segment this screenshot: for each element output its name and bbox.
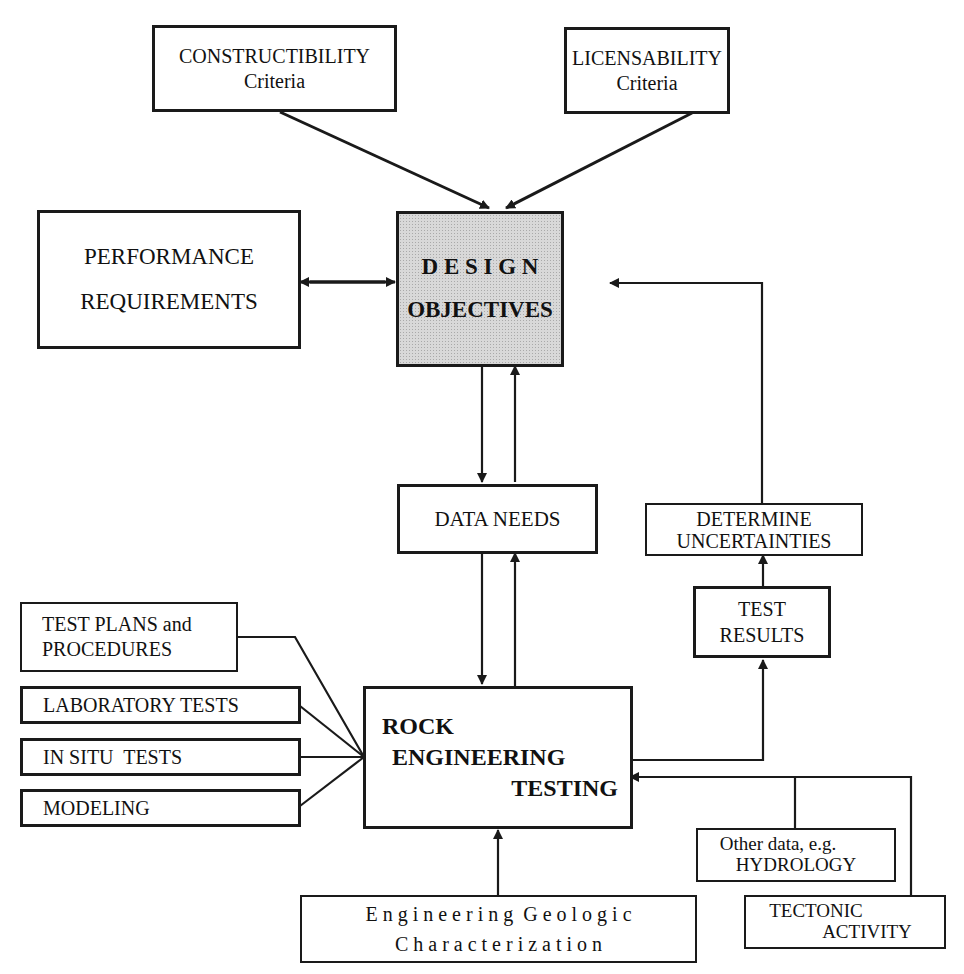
box-subtitle: HYDROLOGY bbox=[736, 855, 856, 876]
determine-uncertainties-box: DETERMINE UNCERTAINTIES bbox=[645, 503, 863, 556]
box-subtitle: OBJECTIVES bbox=[407, 296, 553, 325]
constructibility-criteria-box: CONSTRUCTIBILITY Criteria bbox=[152, 25, 397, 112]
test-results-box: TEST RESULTS bbox=[693, 586, 831, 658]
box-subtitle: UNCERTAINTIES bbox=[677, 530, 832, 552]
box-title: TEST bbox=[738, 596, 786, 622]
box-title: DETERMINE bbox=[696, 508, 812, 530]
box-subtitle: RESULTS bbox=[720, 622, 805, 648]
other-data-hydrology-box: Other data, e.g. HYDROLOGY bbox=[696, 828, 896, 882]
box-title: CONSTRUCTIBILITY bbox=[179, 44, 370, 69]
box-subtitle: Criteria bbox=[244, 69, 305, 94]
box-title: D E S I G N bbox=[422, 253, 539, 282]
box-subtitle: C h a r a c t e r i z a t i o n bbox=[395, 929, 602, 959]
box-subtitle: PROCEDURES bbox=[42, 637, 172, 662]
rock-engineering-testing-box: ROCK ENGINEERING TESTING bbox=[363, 686, 633, 829]
in-situ-tests-box: IN SITU TESTS bbox=[20, 738, 301, 776]
modeling-box: MODELING bbox=[20, 789, 301, 827]
box-title: TEST PLANS and bbox=[42, 612, 192, 637]
data-needs-box: DATA NEEDS bbox=[397, 484, 598, 554]
test-plans-box: TEST PLANS and PROCEDURES bbox=[20, 602, 238, 672]
laboratory-tests-box: LABORATORY TESTS bbox=[20, 686, 301, 724]
box-title: PERFORMANCE bbox=[84, 243, 254, 272]
box-title: DATA NEEDS bbox=[434, 506, 560, 532]
box-title: LABORATORY TESTS bbox=[43, 693, 239, 718]
licensability-criteria-box: LICENSABILITY Criteria bbox=[564, 27, 730, 114]
box-title: Other data, e.g. bbox=[720, 834, 873, 855]
box-subtitle: Criteria bbox=[616, 71, 677, 96]
box-title: MODELING bbox=[43, 796, 150, 821]
design-objectives-box: D E S I G N OBJECTIVES bbox=[396, 211, 564, 367]
box-title: IN SITU TESTS bbox=[43, 745, 182, 770]
box-subtitle: ENGINEERING bbox=[366, 742, 630, 773]
performance-requirements-box: PERFORMANCE REQUIREMENTS bbox=[37, 210, 301, 349]
box-title: E n g i n e e r i n g G e o l o g i c bbox=[365, 899, 631, 929]
box-subtitle: ACTIVITY bbox=[778, 922, 912, 943]
engineering-geologic-characterization-box: E n g i n e e r i n g G e o l o g i c C … bbox=[300, 895, 697, 963]
tectonic-activity-box: TECTONIC ACTIVITY bbox=[744, 895, 946, 949]
box-subtitle-2: TESTING bbox=[366, 773, 630, 804]
box-title: LICENSABILITY bbox=[572, 46, 722, 71]
box-title: ROCK bbox=[366, 711, 630, 742]
box-title: TECTONIC bbox=[769, 901, 921, 922]
box-subtitle: REQUIREMENTS bbox=[80, 288, 258, 317]
